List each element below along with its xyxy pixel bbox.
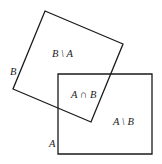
region-a-minus-b-label: A \ B bbox=[112, 116, 134, 127]
set-diagram: B A B \ A A ∩ B A \ B bbox=[0, 0, 162, 164]
set-a-label: A bbox=[48, 138, 56, 149]
region-a-intersect-b-label: A ∩ B bbox=[70, 89, 97, 100]
region-b-minus-a-label: B \ A bbox=[52, 48, 73, 59]
set-b-label: B bbox=[10, 66, 17, 77]
set-b-outline bbox=[13, 11, 123, 122]
